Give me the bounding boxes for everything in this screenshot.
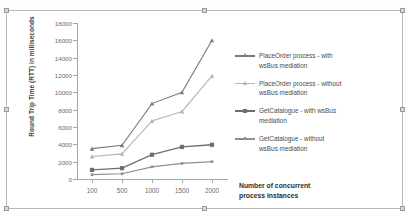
x-axis-title-line2: process instances (239, 191, 349, 201)
legend-marker-icon (243, 53, 247, 57)
picture-frame[interactable]: Round Trip Time (RTT) in milliseconds 02… (6, 10, 403, 209)
y-tick-mark (73, 162, 77, 163)
x-axis-title: Number of concurrent process instances (239, 181, 349, 200)
series-line (92, 76, 212, 157)
y-tick-mark (73, 144, 77, 145)
data-point-marker (151, 166, 154, 169)
series-line (92, 40, 212, 148)
x-tick-label: 500 (117, 187, 128, 194)
y-tick-label: 6000 (58, 124, 72, 131)
y-tick-label: 10000 (55, 89, 72, 96)
chart-figure: Round Trip Time (RTT) in milliseconds 02… (0, 0, 409, 217)
legend-item[interactable]: GetCatalogue - withoutwsBus mediation (235, 134, 395, 153)
legend-label-line1: GetCatalogue - with wsBus (259, 106, 395, 116)
legend-label-line1: GetCatalogue - without (259, 134, 395, 144)
legend-label-line2: wsBus mediation (259, 144, 395, 154)
series-lines (77, 23, 227, 179)
y-tick-label: 12000 (55, 72, 72, 79)
x-tick-label: 1000 (145, 187, 159, 194)
x-tick-label: 100 (87, 187, 98, 194)
y-tick-label: 0 (69, 176, 72, 183)
legend-marker-icon (243, 81, 247, 85)
plot-area (77, 23, 227, 179)
y-tick-mark (73, 40, 77, 41)
x-tick-mark (152, 179, 153, 183)
x-tick-mark (182, 179, 183, 183)
data-point-marker (181, 162, 184, 165)
y-axis-title: Round Trip Time (RTT) in milliseconds (28, 7, 35, 147)
y-tick-mark (73, 23, 77, 24)
chart-legend: PlaceOrder process - withwsBus mediation… (235, 51, 395, 162)
data-point-marker (90, 168, 94, 172)
data-point-marker (210, 38, 214, 42)
y-tick-mark (73, 92, 77, 93)
data-point-marker (211, 160, 214, 163)
y-tick-label: 18000 (55, 20, 72, 27)
y-tick-label: 14000 (55, 54, 72, 61)
x-tick-mark (212, 179, 213, 183)
y-tick-mark (73, 127, 77, 128)
legend-item[interactable]: PlaceOrder process - withoutwsBus mediat… (235, 79, 395, 98)
data-point-marker (210, 143, 214, 147)
data-point-marker (180, 145, 184, 149)
legend-label-line1: PlaceOrder process - with (259, 51, 395, 61)
y-tick-mark (73, 110, 77, 111)
y-tick-mark (73, 179, 77, 180)
legend-label-line2: mediation (259, 116, 395, 126)
legend-label-line2: wsBus mediation (259, 61, 395, 71)
data-point-marker (150, 153, 154, 157)
legend-marker-icon (243, 109, 247, 113)
data-point-marker (121, 173, 124, 176)
y-axis-tick-labels: 0200040006000800010000120001400016000180… (45, 19, 75, 179)
y-tick-mark (73, 75, 77, 76)
x-tick-label: 2000 (205, 187, 219, 194)
x-axis-title-line1: Number of concurrent (239, 181, 349, 191)
legend-item[interactable]: GetCatalogue - with wsBusmediation (235, 106, 395, 125)
y-tick-mark (73, 58, 77, 59)
legend-marker-icon (244, 137, 247, 140)
x-tick-label: 1500 (175, 187, 189, 194)
y-tick-label: 8000 (58, 106, 72, 113)
y-tick-label: 16000 (55, 37, 72, 44)
data-point-marker (210, 74, 214, 78)
legend-label-line2: wsBus mediation (259, 88, 395, 98)
legend-label-line1: PlaceOrder process - without (259, 79, 395, 89)
data-point-marker (120, 166, 124, 170)
x-tick-mark (122, 179, 123, 183)
x-tick-mark (92, 179, 93, 183)
data-point-marker (91, 173, 94, 176)
y-tick-label: 2000 (58, 158, 72, 165)
plot-area-wrapper: Round Trip Time (RTT) in milliseconds 02… (7, 11, 404, 210)
legend-item[interactable]: PlaceOrder process - withwsBus mediation (235, 51, 395, 70)
y-tick-label: 4000 (58, 141, 72, 148)
